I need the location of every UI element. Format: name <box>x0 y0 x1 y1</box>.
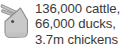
stat-line-chickens: 3.7m chickens <box>35 32 138 47</box>
livestock-counts-callout: 136,000 cattle, 66,000 ducks, 3.7m chick… <box>0 0 138 50</box>
stat-line-ducks: 66,000 ducks, <box>35 16 138 31</box>
stat-line-cattle: 136,000 cattle, <box>35 1 138 16</box>
cow-head-icon <box>0 1 34 41</box>
stat-text-block: 136,000 cattle, 66,000 ducks, 3.7m chick… <box>35 1 138 49</box>
